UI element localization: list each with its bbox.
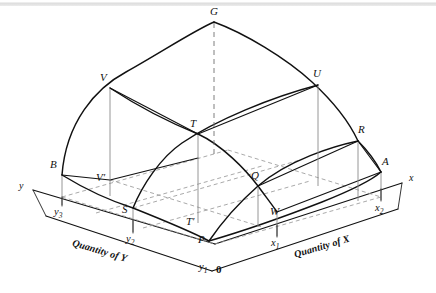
tick-label-y3-sub: 3 (59, 211, 63, 220)
utility-surface-diagram: .solid { fill:none; stroke:#111111; stro… (0, 0, 436, 293)
point-label-T-prime: T′ (186, 216, 195, 227)
x-axis-line (215, 183, 402, 244)
point-label-B: B (50, 159, 57, 170)
tick-label-y2-sub: 2 (131, 238, 135, 247)
tick-label-x2-sub: 2 (380, 207, 384, 216)
tick-label-x1-sub: 1 (276, 242, 280, 251)
figure-root: .solid { fill:none; stroke:#111111; stro… (0, 0, 436, 293)
chord-Vprime-ridge (110, 158, 198, 180)
arc-B-V-G (62, 22, 214, 175)
chord-R-A-base (358, 141, 381, 172)
point-label-V: V (100, 72, 107, 83)
point-label-S: S (122, 204, 128, 215)
curve-P-Q-R (209, 141, 358, 241)
tick-label-y3: y3 (54, 207, 62, 220)
arc-G-U-R (214, 22, 358, 141)
axis-plane (33, 183, 402, 271)
tick-label-x2: x2 (375, 203, 383, 216)
point-label-Q: Q (251, 170, 259, 181)
point-label-T: T (190, 118, 196, 129)
point-label-U: U (313, 68, 321, 79)
axis-label-x: x (409, 173, 413, 183)
tick-label-y1: y1 (199, 262, 207, 275)
point-label-A: A (382, 156, 389, 167)
ground-connector-left (33, 190, 46, 216)
point-label-R: R (358, 124, 365, 135)
ground-connector-right (398, 183, 402, 209)
chord-Q-R-lower (258, 141, 358, 186)
chord-V-T (110, 88, 198, 134)
axis-label-y: y (19, 181, 23, 191)
point-label-W: W (270, 206, 279, 217)
tick-label-y2: y2 (126, 234, 134, 247)
tick-label-y1-sub: 1 (204, 266, 208, 275)
arc-B-S-P (62, 175, 209, 241)
point-label-G: G (210, 6, 218, 17)
grid-line-mid-right (133, 160, 300, 208)
tick-label-x1: x1 (271, 238, 279, 251)
chord-T-U (198, 85, 318, 134)
curve-S-T-U (133, 85, 318, 208)
drop-lines (62, 23, 381, 236)
point-label-V-prime: V′ (96, 172, 105, 183)
point-label-P: P (198, 234, 205, 245)
origin-label: 0 (216, 264, 222, 275)
grid-edge-back-left (62, 150, 228, 197)
